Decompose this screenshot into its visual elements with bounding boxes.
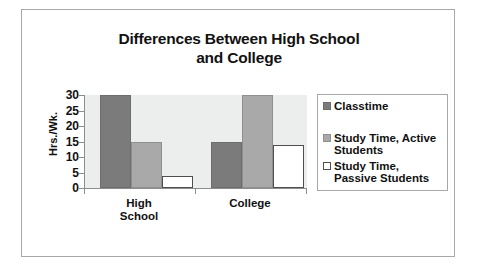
bar-high-school-classtime	[100, 95, 131, 188]
x-category-label-high-school-line-1: High	[109, 197, 169, 210]
bar-high-school-study-passive	[162, 176, 193, 188]
bar-college-classtime	[211, 142, 242, 189]
legend-swatch-study-active-icon	[323, 134, 331, 142]
legend-label-classtime: Classtime	[334, 100, 388, 113]
x-axis-tick-divider	[195, 188, 196, 194]
chart-legend: Classtime Study Time, Active Students St…	[317, 94, 448, 191]
legend-label-study-active-line-2: Students	[334, 144, 383, 156]
y-tick-label-15: 15	[55, 137, 79, 147]
bar-college-study-passive	[273, 145, 304, 188]
legend-label-study-active-line-1: Study Time, Active	[334, 132, 436, 144]
legend-label-study-passive-line-2: Students	[380, 172, 429, 184]
bar-college-study-active	[242, 95, 273, 188]
chart-figure-frame: Differences Between High School and Coll…	[21, 9, 455, 257]
x-category-label-college: College	[220, 197, 280, 210]
y-axis-tick-labels: 30 25 20 15 10 5 0	[55, 95, 79, 188]
x-axis-tick-start	[84, 188, 85, 194]
bar-high-school-study-active	[131, 142, 162, 189]
y-tick-label-30: 30	[55, 90, 79, 100]
x-category-label-high-school-line-2: School	[109, 210, 169, 223]
x-category-label-college-line-1: College	[220, 197, 280, 210]
x-category-label-high-school: High School	[109, 197, 169, 223]
legend-label-study-passive: Study Time, Passive Students	[334, 160, 443, 185]
plot-area	[84, 95, 307, 188]
y-tick-label-25: 25	[55, 106, 79, 116]
y-tick-label-10: 10	[55, 152, 79, 162]
x-axis-tick-end	[306, 188, 307, 194]
legend-item-classtime[interactable]: Classtime	[323, 100, 443, 113]
y-tick-label-20: 20	[55, 121, 79, 131]
plot-assembly: Hrs./Wk. 30 25 20 15 10 5 0	[22, 10, 456, 258]
y-tick-label-5: 5	[55, 168, 79, 178]
legend-item-study-passive[interactable]: Study Time, Passive Students	[323, 160, 443, 185]
legend-label-study-active: Study Time, Active Students	[334, 132, 443, 157]
y-tick-label-0: 0	[55, 183, 79, 193]
legend-swatch-classtime-icon	[323, 102, 331, 110]
legend-swatch-study-passive-icon	[323, 162, 331, 170]
legend-item-study-active[interactable]: Study Time, Active Students	[323, 132, 443, 157]
